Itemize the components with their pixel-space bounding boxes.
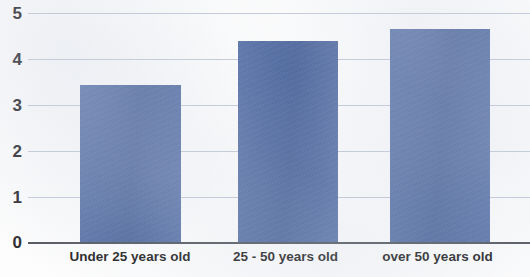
gridline-5 — [28, 13, 530, 14]
y-tick-label-4: 4 — [0, 51, 22, 68]
y-tick-label-1: 1 — [0, 189, 22, 206]
x-axis-baseline — [28, 242, 530, 244]
bar-chart: 5 4 3 2 1 0 Under 25 years old 25 - 50 y… — [0, 0, 530, 277]
bar-over-50 — [390, 29, 490, 243]
y-tick-label-2: 2 — [0, 143, 22, 160]
y-tick-label-0: 0 — [0, 234, 22, 251]
y-tick-label-3: 3 — [0, 97, 22, 114]
plot-area — [28, 13, 530, 243]
bar-under-25 — [80, 85, 181, 243]
x-label-over-50: over 50 years old — [370, 250, 505, 264]
bar-25-to-50 — [238, 41, 338, 243]
x-label-25-to-50: 25 - 50 years old — [218, 250, 353, 264]
x-label-under-25: Under 25 years old — [60, 250, 200, 264]
y-tick-label-5: 5 — [0, 5, 22, 22]
